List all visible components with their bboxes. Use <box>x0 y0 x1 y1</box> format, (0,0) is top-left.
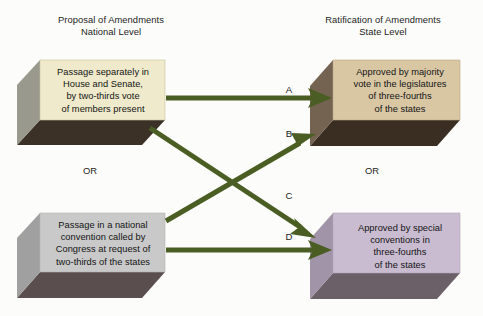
box-label-ratify-legislature: Approved by majority vote in the legisla… <box>336 66 464 115</box>
box-ratify-legislature-bottom-face <box>310 120 460 146</box>
arrow-d <box>166 240 332 260</box>
box-ratify-convention-bottom-face <box>310 273 460 299</box>
box-propose-congress-bottom-face <box>17 120 165 145</box>
arrow-label-a: A <box>281 84 297 95</box>
arrow-label-c: C <box>281 190 297 201</box>
arrow-a <box>166 88 332 108</box>
arrow-label-b: B <box>281 128 297 139</box>
header-proposal: Proposal of Amendments National Level <box>18 14 204 38</box>
or-connector-right: OR <box>352 165 392 176</box>
arrow-b <box>166 133 316 221</box>
amendment-process-diagram: Proposal of Amendments National Level Ra… <box>0 0 483 316</box>
box-label-ratify-convention: Approved by special conventions in three… <box>336 222 464 271</box>
or-connector-left: OR <box>70 165 110 176</box>
box-label-propose-convention: Passage in a national convention called … <box>40 219 166 268</box>
box-propose-convention-bottom-face <box>17 272 165 298</box>
header-ratification: Ratification of Amendments State Level <box>288 14 478 38</box>
arrow-label-d: D <box>281 231 297 242</box>
box-label-propose-congress: Passage separately in House and Senate, … <box>40 66 166 115</box>
